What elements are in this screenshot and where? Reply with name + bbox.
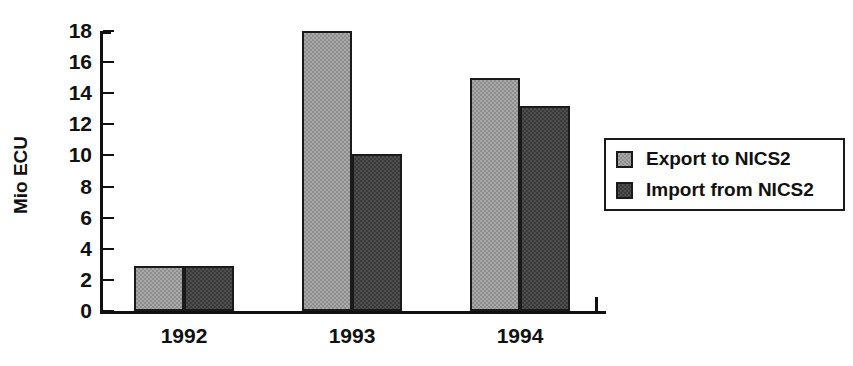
bar-1992-export bbox=[134, 266, 184, 311]
bar-1993-export bbox=[302, 31, 352, 311]
x-axis-label-1992: 1992 bbox=[124, 324, 244, 348]
bars-layer bbox=[103, 31, 606, 311]
y-axis-tick-label: 4 bbox=[32, 238, 92, 259]
legend-swatch-icon bbox=[616, 151, 633, 168]
y-axis-tick-label: 6 bbox=[32, 207, 92, 228]
legend-swatch-icon bbox=[616, 182, 633, 199]
x-axis-label-1993: 1993 bbox=[292, 324, 412, 348]
bar-1993-import bbox=[352, 154, 402, 311]
y-axis-tick-label: 0 bbox=[32, 300, 92, 321]
legend-item-export: Export to NICS2 bbox=[616, 148, 791, 170]
bar-chart: Mio ECU 024681012141618 199219931994 Exp… bbox=[0, 0, 853, 366]
y-axis-tick-label: 16 bbox=[32, 51, 92, 72]
legend-item-label: Export to NICS2 bbox=[646, 148, 791, 170]
x-axis-label-1994: 1994 bbox=[460, 324, 580, 348]
legend: Export to NICS2Import from NICS2 bbox=[604, 138, 845, 211]
y-axis-tick-label: 8 bbox=[32, 176, 92, 197]
y-axis-tick-label: 2 bbox=[32, 269, 92, 290]
bar-1994-export bbox=[470, 78, 520, 311]
x-axis-category-labels: 199219931994 bbox=[100, 324, 606, 354]
x-axis-line bbox=[100, 311, 606, 314]
y-axis-tick-label: 12 bbox=[32, 113, 92, 134]
y-axis-tick-label: 10 bbox=[32, 144, 92, 165]
y-axis-tick-label: 14 bbox=[32, 82, 92, 103]
plot-area bbox=[100, 31, 606, 314]
bar-1992-import bbox=[184, 266, 234, 311]
legend-item-import: Import from NICS2 bbox=[616, 179, 814, 201]
bar-1994-import bbox=[520, 106, 570, 311]
y-axis-tick-label: 18 bbox=[32, 20, 92, 41]
legend-item-label: Import from NICS2 bbox=[646, 179, 814, 201]
y-axis-tick-labels: 024681012141618 bbox=[30, 31, 92, 314]
